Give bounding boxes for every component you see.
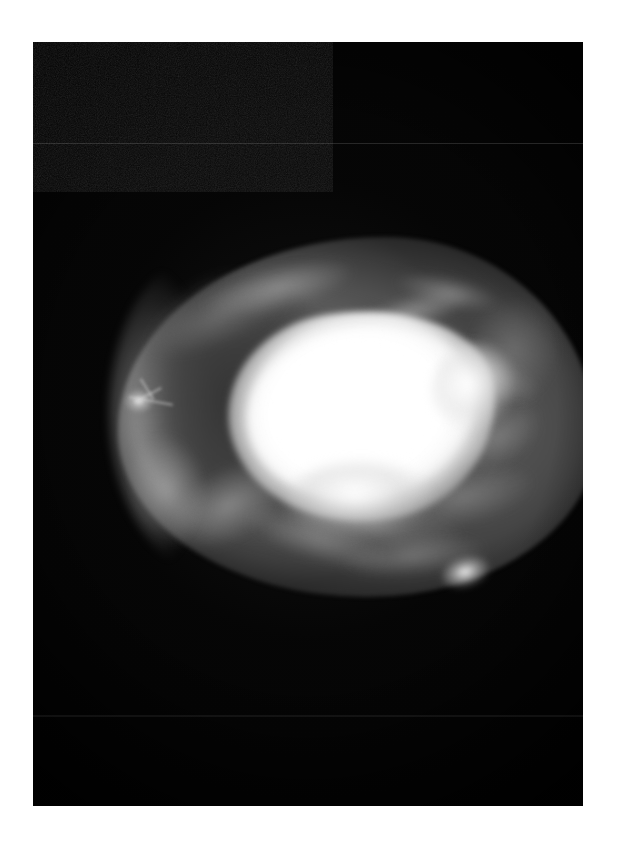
radiograph-film xyxy=(33,42,583,806)
scanline-artifact-bottom xyxy=(33,715,583,717)
mammogram-page xyxy=(0,0,619,864)
scanline-artifact-top xyxy=(33,143,583,144)
dense-mass-right-extension xyxy=(431,342,527,434)
film-grain xyxy=(33,42,333,192)
dense-mass-inferior-tail xyxy=(283,462,433,540)
